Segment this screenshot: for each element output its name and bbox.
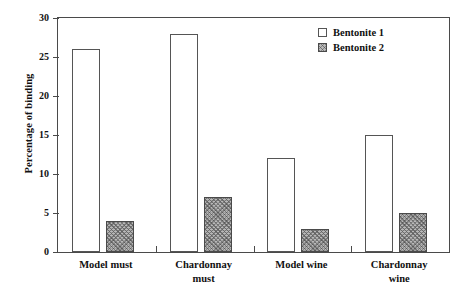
bar-bentonite-2-model-must: [106, 221, 134, 252]
y-axis-tick-mark: [53, 213, 59, 214]
y-axis-tick-label: 0: [44, 245, 49, 258]
x-axis-category-label: Model wine: [253, 258, 351, 272]
y-axis-tick-label: 15: [39, 128, 49, 141]
x-axis-category-label-line: must: [155, 272, 253, 286]
legend-item-label: Bentonite 1: [333, 27, 384, 38]
x-axis-category-label-line: Chardonnay: [175, 259, 232, 270]
y-axis-tick-label: 10: [39, 167, 49, 180]
bar-bentonite-1-chardonnay-wine: [365, 135, 393, 252]
y-axis-tick-mark: [53, 57, 59, 58]
y-axis-tick-mark: [53, 18, 59, 19]
open-square-icon: [318, 28, 327, 37]
y-axis-tick-label: 20: [39, 89, 49, 102]
x-axis-separator: [254, 246, 255, 252]
legend-item-label: Bentonite 2: [333, 42, 384, 53]
y-axis-tick-mark: [53, 135, 59, 136]
stippled-square-icon: [318, 43, 327, 52]
x-axis-separator: [351, 246, 352, 252]
bar-bentonite-2-chardonnay-must: [204, 197, 232, 252]
legend-item-2: Bentonite 2: [318, 40, 384, 54]
x-axis-category-label: Chardonnaywine: [350, 258, 448, 286]
x-axis-category-label-line: Chardonnay: [371, 259, 428, 270]
plot-area: 051015202530: [57, 17, 450, 253]
chart-legend: Bentonite 1Bentonite 2: [318, 25, 384, 55]
y-axis-tick-label: 5: [44, 206, 49, 219]
bar-bentonite-1-model-must: [72, 49, 100, 252]
y-axis-tick-mark: [53, 252, 59, 253]
bar-bentonite-1-model-wine: [267, 158, 295, 252]
y-axis-title: Percentage of binding: [23, 34, 34, 214]
y-axis-tick-label: 30: [39, 11, 49, 24]
x-axis-category-label-line: Model wine: [275, 259, 327, 270]
x-axis-category-label: Chardonnaymust: [155, 258, 253, 286]
y-axis-tick-mark: [53, 174, 59, 175]
x-axis-category-label-line: wine: [350, 272, 448, 286]
bar-chart-figure: Percentage of binding 051015202530 Model…: [0, 0, 456, 293]
x-axis-separator: [156, 246, 157, 252]
bar-bentonite-1-chardonnay-must: [170, 34, 198, 252]
y-axis-tick-mark: [53, 96, 59, 97]
bar-bentonite-2-model-wine: [301, 229, 329, 252]
y-axis-tick-label: 25: [39, 50, 49, 63]
x-axis-category-label-line: Model must: [79, 259, 132, 270]
x-axis-category-label: Model must: [57, 258, 155, 272]
legend-item-1: Bentonite 1: [318, 25, 384, 39]
bar-bentonite-2-chardonnay-wine: [399, 213, 427, 252]
